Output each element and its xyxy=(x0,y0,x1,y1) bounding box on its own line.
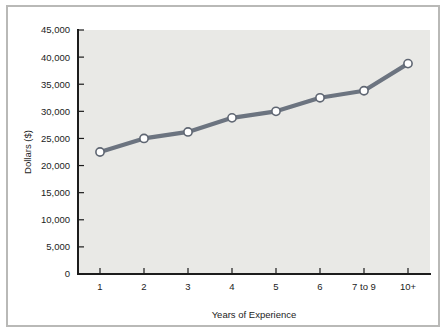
x-tick-label: 6 xyxy=(317,281,322,292)
y-tick-label: 45,000 xyxy=(41,24,70,35)
data-point-marker xyxy=(360,87,368,95)
y-axis-title: Dollars ($) xyxy=(22,130,33,174)
figure-container: 05,00010,00015,00020,00025,00030,00035,0… xyxy=(0,0,447,335)
y-tick-label: 30,000 xyxy=(41,106,70,117)
x-tick-label: 3 xyxy=(185,281,190,292)
data-point-marker xyxy=(96,148,104,156)
y-tick-label: 15,000 xyxy=(41,187,70,198)
y-axis-tick-labels: 05,00010,00015,00020,00025,00030,00035,0… xyxy=(41,24,70,279)
x-tick-label: 1 xyxy=(97,281,102,292)
y-tick-label: 20,000 xyxy=(41,160,70,171)
data-point-marker xyxy=(404,60,412,68)
x-tick-label: 4 xyxy=(229,281,234,292)
plot-background xyxy=(78,30,430,274)
x-tick-label: 7 to 9 xyxy=(352,281,376,292)
data-point-marker xyxy=(184,128,192,136)
data-point-marker xyxy=(316,94,324,102)
y-tick-label: 25,000 xyxy=(41,133,70,144)
x-axis-tick-labels: 1234567 to 910+ xyxy=(97,281,416,292)
y-tick-label: 5,000 xyxy=(46,241,70,252)
data-point-marker xyxy=(228,114,236,122)
line-chart: 05,00010,00015,00020,00025,00030,00035,0… xyxy=(0,0,447,335)
x-tick-label: 5 xyxy=(273,281,278,292)
y-tick-label: 0 xyxy=(65,268,70,279)
data-point-marker xyxy=(140,134,148,142)
x-axis-title: Years of Experience xyxy=(212,309,297,320)
y-tick-label: 40,000 xyxy=(41,52,70,63)
x-tick-label: 10+ xyxy=(400,281,417,292)
x-tick-label: 2 xyxy=(141,281,146,292)
y-tick-label: 35,000 xyxy=(41,79,70,90)
y-tick-label: 10,000 xyxy=(41,214,70,225)
data-point-marker xyxy=(272,107,280,115)
